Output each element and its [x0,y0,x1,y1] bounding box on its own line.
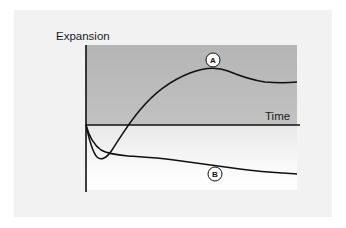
marker-a: A [206,53,220,67]
marker-b-label: B [212,170,218,179]
marker-a-label: A [210,56,216,65]
expansion-time-chart: Expansion Time A B [0,0,346,228]
figure-root: Expansion Time A B [0,0,346,228]
x-axis-label: Time [265,110,290,122]
y-axis-label: Expansion [56,30,110,42]
marker-b: B [208,167,222,181]
